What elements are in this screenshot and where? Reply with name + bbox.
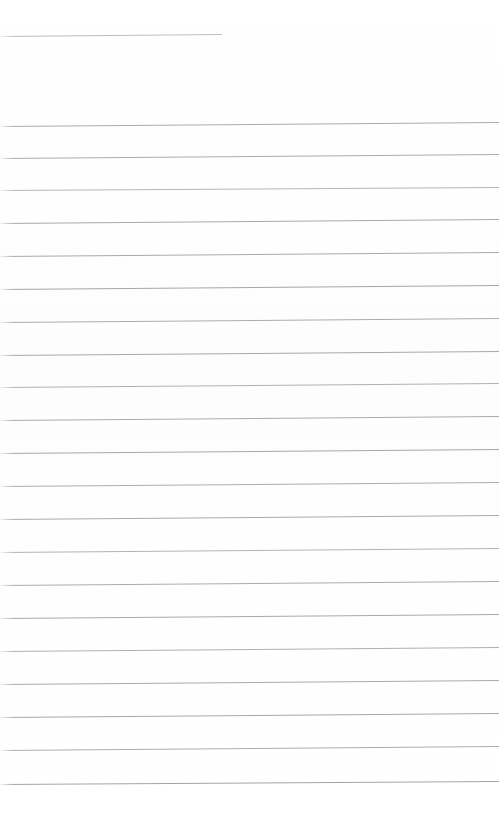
- rule-8: [0, 351, 499, 356]
- rule-20: [0, 746, 499, 751]
- rule-3: [0, 187, 499, 191]
- rule-5: [0, 252, 499, 257]
- rule-6: [0, 285, 499, 290]
- body-rule-group: [0, 0, 499, 814]
- rule-15: [0, 581, 499, 586]
- rule-10: [0, 416, 499, 421]
- rule-2: [0, 154, 499, 159]
- rule-18: [0, 680, 499, 685]
- rule-1: [0, 122, 499, 127]
- rule-14: [0, 548, 499, 553]
- rule-19: [0, 713, 499, 718]
- rule-16: [0, 614, 499, 619]
- scanned-page: [0, 0, 499, 814]
- rule-9: [0, 383, 499, 388]
- rule-21: [0, 781, 499, 785]
- rule-17: [0, 647, 499, 652]
- rule-7: [0, 318, 499, 323]
- rule-13: [0, 515, 499, 520]
- rule-12: [0, 482, 499, 487]
- rule-11: [0, 449, 499, 454]
- rule-4: [0, 219, 499, 224]
